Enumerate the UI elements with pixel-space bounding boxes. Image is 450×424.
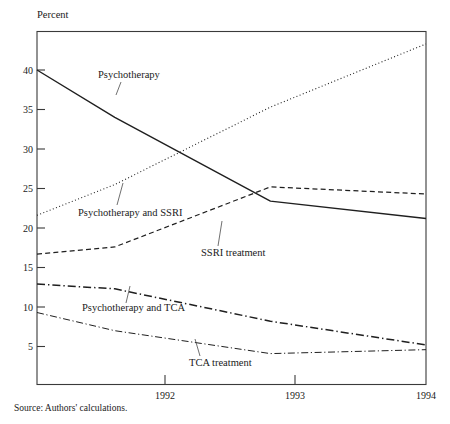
x-axis-ticks bbox=[165, 375, 295, 385]
series-line-psychotherapy-and-tca bbox=[37, 284, 426, 345]
x-tick-label-1992: 1992 bbox=[155, 390, 175, 401]
series-line-ssri-treatment bbox=[37, 187, 426, 254]
leader-psychotherapy-and-ssri bbox=[117, 183, 123, 205]
series-label-psychotherapy-and-tca: Psychotherapy and TCA bbox=[82, 302, 185, 313]
y-tick-label-20: 20 bbox=[23, 223, 33, 234]
leader-psychotherapy-and-tca bbox=[126, 286, 130, 303]
series-annotations: Psychotherapy Psychotherapy and SSRI SSR… bbox=[78, 69, 266, 368]
y-tick-label-30: 30 bbox=[23, 144, 33, 155]
x-tick-label-1993: 1993 bbox=[285, 390, 305, 401]
series-label-tca-treatment: TCA treatment bbox=[189, 357, 252, 368]
annotation-leaders bbox=[116, 82, 222, 356]
series-line-psychotherapy bbox=[37, 70, 426, 219]
y-tick-label-35: 35 bbox=[23, 104, 33, 115]
source-note: Source: Authors' calculations. bbox=[14, 403, 127, 413]
series-label-psychotherapy: Psychotherapy bbox=[98, 69, 161, 80]
y-axis-ticks bbox=[37, 70, 45, 347]
y-axis-tick-labels: 40 35 30 25 20 15 10 5 bbox=[23, 65, 33, 353]
y-axis-title: Percent bbox=[37, 9, 69, 20]
chart-page: Percent 40 35 30 25 20 15 10 5 bbox=[0, 0, 450, 424]
series-label-psychotherapy-and-ssri: Psychotherapy and SSRI bbox=[78, 207, 183, 218]
line-chart: Percent 40 35 30 25 20 15 10 5 bbox=[0, 0, 450, 424]
y-tick-label-5: 5 bbox=[28, 341, 33, 352]
x-axis-tick-labels: 1992 1993 1994 bbox=[155, 390, 436, 401]
series-label-ssri-treatment: SSRI treatment bbox=[201, 247, 266, 258]
y-tick-label-25: 25 bbox=[23, 183, 33, 194]
y-tick-label-15: 15 bbox=[23, 262, 33, 273]
leader-psychotherapy bbox=[116, 82, 121, 95]
y-tick-label-10: 10 bbox=[23, 302, 33, 313]
series-line-psychotherapy-and-ssri bbox=[37, 44, 426, 215]
x-tick-label-1994: 1994 bbox=[416, 390, 436, 401]
leader-ssri-treatment bbox=[218, 221, 222, 246]
series-line-tca-treatment bbox=[37, 313, 426, 354]
leader-tca-treatment bbox=[195, 339, 200, 356]
y-tick-label-40: 40 bbox=[23, 65, 33, 76]
